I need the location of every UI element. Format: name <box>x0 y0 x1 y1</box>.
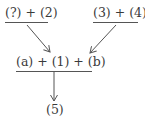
node-top-left: (?) + (2) <box>5 6 48 23</box>
node-top-right-label: (3) + (4) <box>93 5 145 20</box>
arrow-top-right-to-middle <box>90 25 116 53</box>
node-middle: (a) + (1) + (b) <box>16 55 92 72</box>
node-top-right: (3) + (4) <box>93 6 138 23</box>
node-bottom: (5) <box>46 103 64 117</box>
node-middle-label: (a) + (1) + (b) <box>16 54 106 69</box>
node-bottom-label: (5) <box>46 102 64 117</box>
node-top-left-label: (?) + (2) <box>5 5 58 20</box>
arrow-top-left-to-middle <box>27 25 50 52</box>
